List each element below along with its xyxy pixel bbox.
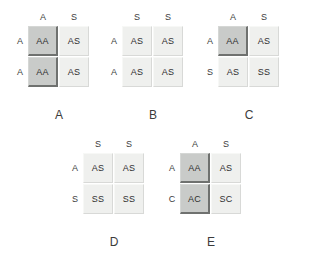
punnett-square-caption-b: B xyxy=(122,108,184,122)
punnett-square-figure: ASAAAAASAAASASSAAASASASASBASASAAASASSSCS… xyxy=(0,0,310,254)
punnett-a-col-header-2: S xyxy=(59,12,89,23)
punnett-square-caption-c: C xyxy=(218,108,280,122)
punnett-square-caption-e: E xyxy=(180,235,242,249)
punnett-square-a: ASAAAAASAAAS xyxy=(28,26,90,88)
punnett-b-row-header-1: A xyxy=(108,36,120,47)
punnett-c-cell-3: AS xyxy=(218,57,248,87)
punnett-e-row-header-2: C xyxy=(166,194,178,205)
punnett-square-c: ASASAAASASSS xyxy=(218,26,280,88)
punnett-d-row-header-2: S xyxy=(69,194,81,205)
punnett-square-e: ASACAAASACSC xyxy=(180,153,242,215)
punnett-a-col-header-1: A xyxy=(28,12,58,23)
punnett-d-col-header-2: S xyxy=(114,139,144,150)
punnett-c-col-header-2: S xyxy=(249,12,279,23)
punnett-e-cell-1: AA xyxy=(180,153,210,183)
punnett-square-d: SSASASASSSSS xyxy=(83,153,145,215)
punnett-b-col-header-2: S xyxy=(153,12,183,23)
punnett-a-cell-3: AA xyxy=(28,57,58,87)
punnett-b-col-header-1: S xyxy=(122,12,152,23)
punnett-b-cell-3: AS xyxy=(122,57,152,87)
punnett-e-col-header-2: S xyxy=(211,139,241,150)
punnett-c-cell-4: SS xyxy=(249,57,279,87)
punnett-a-row-header-2: A xyxy=(14,67,26,78)
punnett-e-cell-4: SC xyxy=(211,184,241,214)
punnett-d-cell-3: SS xyxy=(83,184,113,214)
punnett-a-cell-1: AA xyxy=(28,26,58,56)
punnett-square-caption-d: D xyxy=(83,235,145,249)
punnett-c-cell-1: AA xyxy=(218,26,248,56)
punnett-d-cell-4: SS xyxy=(114,184,144,214)
punnett-c-col-header-1: A xyxy=(218,12,248,23)
punnett-e-row-header-1: A xyxy=(166,163,178,174)
punnett-d-cell-2: AS xyxy=(114,153,144,183)
punnett-e-cell-2: AS xyxy=(211,153,241,183)
punnett-d-cell-1: AS xyxy=(83,153,113,183)
punnett-b-row-header-2: A xyxy=(108,67,120,78)
punnett-d-row-header-1: A xyxy=(69,163,81,174)
punnett-b-cell-2: AS xyxy=(153,26,183,56)
punnett-c-row-header-2: S xyxy=(204,67,216,78)
punnett-a-cell-2: AS xyxy=(59,26,89,56)
punnett-e-col-header-1: A xyxy=(180,139,210,150)
punnett-c-cell-2: AS xyxy=(249,26,279,56)
punnett-square-caption-a: A xyxy=(28,108,90,122)
punnett-b-cell-4: AS xyxy=(153,57,183,87)
punnett-b-cell-1: AS xyxy=(122,26,152,56)
punnett-a-row-header-1: A xyxy=(14,36,26,47)
punnett-c-row-header-1: A xyxy=(204,36,216,47)
punnett-a-cell-4: AS xyxy=(59,57,89,87)
punnett-d-col-header-1: S xyxy=(83,139,113,150)
punnett-square-b: SSAAASASASAS xyxy=(122,26,184,88)
punnett-e-cell-3: AC xyxy=(180,184,210,214)
